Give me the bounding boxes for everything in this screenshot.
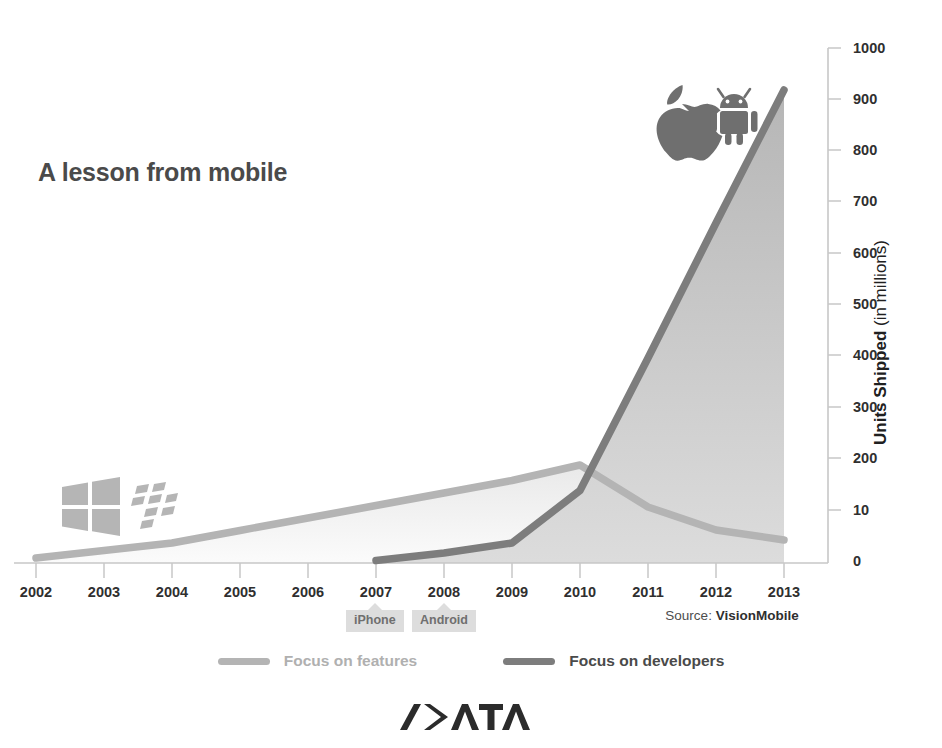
y-axis-ticks: [828, 48, 841, 510]
legend-item-focus-on-developers[interactable]: Focus on developers: [503, 652, 724, 670]
source-prefix: Source:: [665, 608, 715, 623]
legend-label-features: Focus on features: [284, 652, 418, 670]
y-axis-title-strong: Units Shipped: [871, 331, 890, 445]
y-axis-title: Units Shipped (in millions): [871, 145, 891, 445]
windows-logo-icon: [62, 477, 120, 536]
xtick-label-2003: 2003: [88, 584, 120, 600]
blackberry-logo-icon: [131, 482, 178, 529]
source-note: Source: VisionMobile: [665, 608, 798, 623]
ytick-label-900: 900: [853, 91, 877, 107]
chart-canvas: A lesson from mobile: [0, 0, 942, 748]
ytick-label-0: 0: [853, 553, 861, 569]
xtick-label-2012: 2012: [700, 584, 732, 600]
legend-swatch-features: [218, 658, 270, 665]
xtick-label-2010: 2010: [564, 584, 596, 600]
source-name: VisionMobile: [716, 608, 799, 623]
y-axis-title-light: (in millions): [871, 240, 890, 331]
x-axis-ticks: [36, 563, 784, 578]
xtick-label-2004: 2004: [156, 584, 188, 600]
brand-logo: [396, 700, 546, 738]
xtick-label-2006: 2006: [292, 584, 324, 600]
ytick-label-200: 200: [853, 450, 877, 466]
annotation-iphone: iPhone: [346, 610, 404, 632]
xtick-label-2002: 2002: [20, 584, 52, 600]
xtick-label-2011: 2011: [632, 584, 663, 600]
xtick-label-2008: 2008: [428, 584, 460, 600]
ytick-label-100: 10: [853, 502, 869, 518]
legend-item-focus-on-features[interactable]: Focus on features: [218, 652, 418, 670]
xtick-label-2013: 2013: [768, 584, 800, 600]
annotation-android: Android: [412, 610, 476, 632]
xtick-label-2009: 2009: [496, 584, 528, 600]
chart-legend: Focus on features Focus on developers: [0, 652, 942, 670]
ytick-label-1000: 1000: [853, 40, 885, 56]
xtick-label-2007: 2007: [360, 584, 392, 600]
slash-data-logo-icon: [396, 700, 546, 738]
legend-label-developers: Focus on developers: [569, 652, 724, 670]
plot-area: [0, 0, 942, 600]
xtick-label-2005: 2005: [224, 584, 256, 600]
legend-swatch-developers: [503, 658, 555, 665]
